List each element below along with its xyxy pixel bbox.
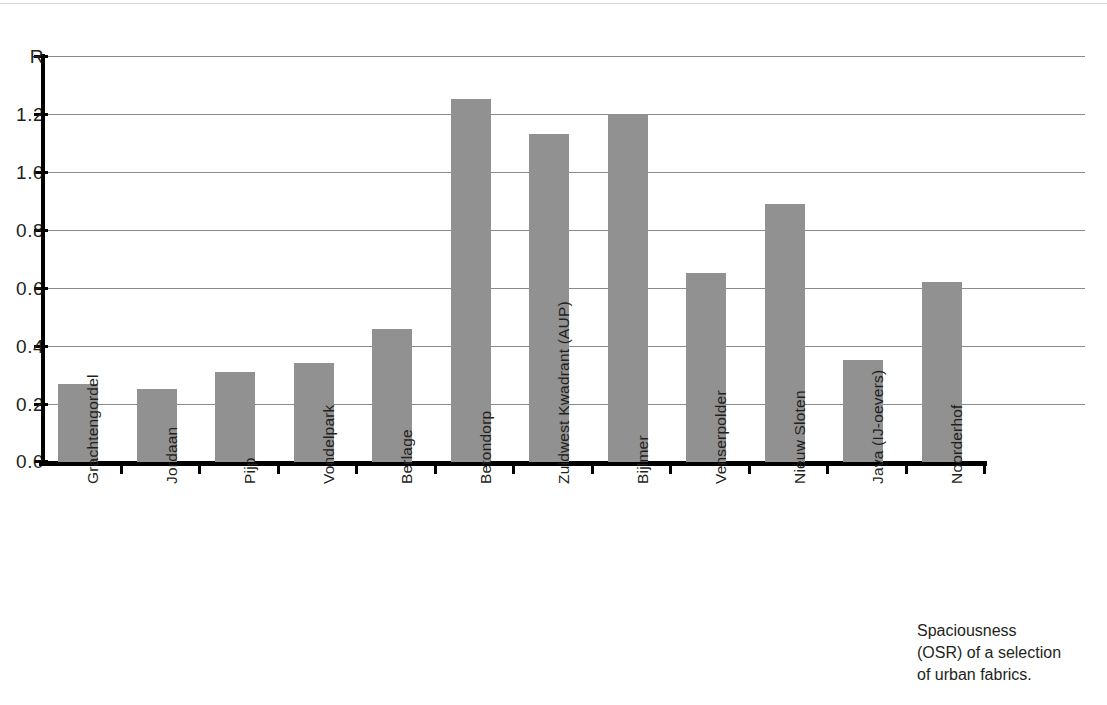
y-axis [41,54,45,464]
xtick-mark [198,466,201,474]
figure-caption: Spaciousness (OSR) of a selection of urb… [917,620,1107,686]
ytick-label-0-2: 0.2 [0,394,44,416]
ytick-label-1-2: 1.2 [0,104,44,126]
gridline-1-4 [41,56,1085,57]
xtick-label: Nieuw Sloten [791,390,809,484]
bar [451,99,491,462]
ytick-label-0-0: 0.0 [0,451,44,473]
xtick-mark [355,466,358,474]
xtick-label: Vondelpark [320,404,338,484]
xtick-mark [434,466,437,474]
bar-chart: R 1.2 1.0 0.8 0.6 0.4 0.2 0.0 Grachtengo… [0,0,1107,705]
xtick-label: Pijp [241,457,259,484]
ytick-label-0-6: 0.6 [0,278,44,300]
xtick-label: Bijlmer [634,435,652,484]
ytick-label-0-4: 0.4 [0,336,44,358]
xtick-mark [277,466,280,474]
xtick-mark [669,466,672,474]
bar [215,372,255,462]
gridline-1-2 [41,114,1085,115]
xtick-mark [905,466,908,474]
xtick-label: Berlage [398,429,416,484]
bar [608,114,648,462]
xtick-mark [983,466,986,474]
xtick-label: Betondorp [477,411,495,484]
xtick-label: Noorderhof [948,404,966,484]
xtick-mark [512,466,515,474]
xtick-label: Venserpolder [712,390,730,484]
xtick-label: Grachtengordel [84,374,102,484]
xtick-mark [748,466,751,474]
ytick-label-0-8: 0.8 [0,220,44,242]
xtick-label: Java (IJ-oevers) [869,370,887,484]
ytick-label-1-0: 1.0 [0,162,44,184]
xtick-mark [826,466,829,474]
xtick-mark [120,466,123,474]
ytick-label-axis-title: R [0,46,44,68]
xtick-label: Zuidwest Kwadrant (AUP) [555,301,573,484]
caption-line-3: of urban fabrics. [917,664,1107,686]
xtick-mark [591,466,594,474]
caption-line-2: (OSR) of a selection [917,642,1107,664]
caption-line-1: Spaciousness [917,620,1107,642]
xtick-label: Jordaan [163,427,181,484]
